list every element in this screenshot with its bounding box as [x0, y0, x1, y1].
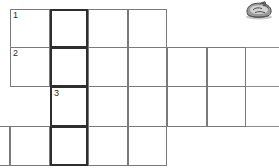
grid-cell-r2c2[interactable] — [50, 47, 88, 87]
clue-number-1: 1 — [13, 10, 18, 21]
grid-cell-r4c2[interactable] — [50, 126, 88, 166]
grid-cell-r4c3[interactable] — [88, 126, 128, 166]
grid-cell-r2c4[interactable] — [128, 47, 167, 87]
grid-cell-r2c5[interactable] — [167, 47, 207, 87]
grid-cell-r4c0[interactable] — [0, 126, 10, 166]
grid-cell-r2c3[interactable] — [88, 47, 128, 87]
grid-rule-bottom-row3 — [246, 126, 279, 127]
clipart-graphic — [243, 1, 276, 20]
grid-rule-top-row2 — [246, 47, 279, 48]
crossword-grid: 1 2 3 — [0, 0, 279, 168]
grid-rule-bottom-row2 — [246, 86, 279, 87]
clue-number-3: 3 — [54, 88, 59, 99]
grid-cell-r3c4[interactable] — [128, 86, 167, 127]
clue-number-2: 2 — [13, 48, 18, 59]
grid-cell-r2c6[interactable] — [207, 47, 246, 87]
grid-cell-r3c6[interactable] — [207, 86, 246, 127]
grid-cell-r4c4[interactable] — [128, 126, 167, 166]
grid-cell-r1c1[interactable]: 1 — [10, 9, 50, 48]
grid-cell-r3c2[interactable]: 3 — [50, 86, 88, 127]
grid-cell-r4c1[interactable] — [10, 126, 50, 166]
grid-cell-r1c4[interactable] — [128, 9, 167, 48]
grid-cell-r3c5[interactable] — [167, 86, 207, 127]
grid-cell-r2c1[interactable]: 2 — [10, 47, 50, 87]
grid-cell-r1c2[interactable] — [50, 9, 88, 48]
grid-cell-r1c3[interactable] — [88, 9, 128, 48]
grid-cell-r3c3[interactable] — [88, 86, 128, 127]
